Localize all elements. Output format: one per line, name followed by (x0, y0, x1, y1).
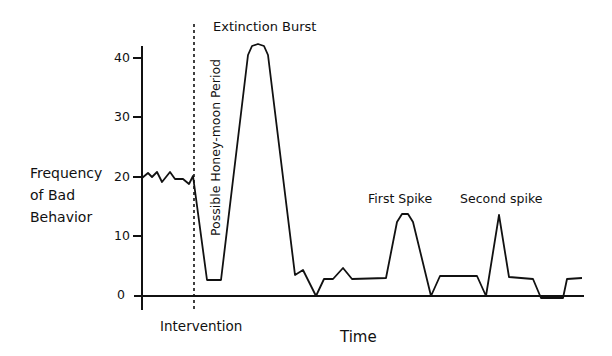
y-tick-label-20: 20 (100, 169, 130, 184)
annotation-extinction-burst: Extinction Burst (213, 19, 316, 34)
annotation-second-spike: Second spike (460, 191, 542, 206)
annotation-first-spike: First Spike (368, 191, 432, 206)
y-tick-label-10: 10 (100, 228, 130, 243)
y-axis-label-line-3: Behavior (30, 206, 102, 228)
annotation-intervention: Intervention (160, 318, 242, 334)
y-tick-label-40: 40 (100, 50, 130, 65)
y-tick-label-0: 0 (95, 287, 125, 302)
y-axis-label-line-2: of Bad (30, 184, 102, 206)
x-axis-label: Time (340, 328, 377, 346)
y-axis-label: Frequency of Bad Behavior (30, 162, 102, 228)
annotation-honeymoon-period: Possible Honey-moon Period (208, 59, 223, 236)
y-axis-label-line-1: Frequency (30, 162, 102, 184)
y-tick-label-30: 30 (100, 109, 130, 124)
